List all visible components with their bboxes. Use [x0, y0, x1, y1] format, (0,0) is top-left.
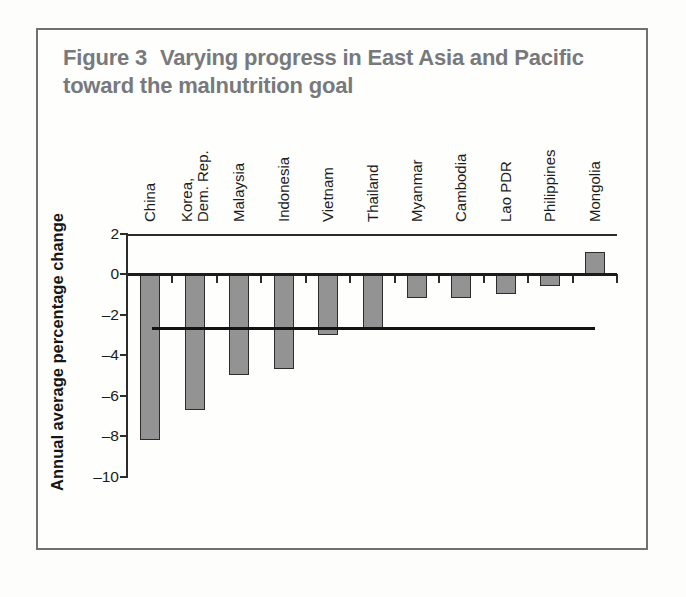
bar-indonesia: [274, 274, 294, 369]
category-label-cambodia: Cambodia: [453, 154, 469, 222]
bar-lao-pdr: [496, 274, 516, 294]
category-label-mongolia: Mongolia: [587, 161, 603, 222]
bar-vietnam: [318, 274, 338, 335]
y-tick-label-6: –6: [70, 386, 119, 406]
category-label-china: China: [142, 183, 158, 222]
category-label-philippines: Philippines: [542, 149, 558, 222]
category-label-lao-pdr: Lao PDR: [498, 161, 514, 222]
y-tick-label-0: 0: [70, 264, 119, 284]
bar-myanmar: [407, 274, 427, 298]
bar-thailand: [363, 274, 383, 329]
bar-cambodia: [451, 274, 471, 298]
bar-korea-dem-rep: [185, 274, 205, 410]
zero-line: [128, 273, 617, 276]
category-label-malaysia: Malaysia: [231, 163, 247, 222]
category-label-thailand: Thailand: [365, 164, 381, 222]
reference-line: [152, 327, 595, 330]
y-tick-label-2: –2: [70, 305, 119, 325]
bar-china: [140, 274, 160, 440]
y-tick-label-10: –10: [70, 467, 119, 487]
bar-malaysia: [229, 274, 249, 375]
bar-chart: 20–2–4–6–8–10ChinaKorea, Dem. Rep.Malays…: [0, 0, 686, 597]
category-label-indonesia: Indonesia: [276, 157, 292, 222]
scanned-report-page: Figure 3Varying progress in East Asia an…: [0, 0, 686, 597]
y-tick-label-4: –4: [70, 345, 119, 365]
y-tick-label-8: –8: [70, 426, 119, 446]
category-label-korea-dem-rep: Korea, Dem. Rep.: [179, 150, 211, 222]
category-label-myanmar: Myanmar: [409, 159, 425, 222]
y-tick-label-2: 2: [70, 224, 119, 244]
category-label-vietnam: Vietnam: [320, 167, 336, 222]
plot-top-line: [128, 234, 617, 236]
bar-philippines: [540, 274, 560, 286]
y-axis-line: [126, 235, 128, 478]
bar-mongolia: [585, 252, 605, 274]
